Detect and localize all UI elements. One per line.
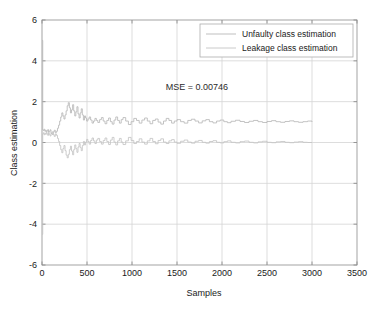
legend-label-1[interactable]: Leakage class estimation — [242, 43, 338, 53]
y-tick-label: 4 — [32, 56, 37, 66]
y-tick-label: 2 — [32, 97, 37, 107]
legend-label-0[interactable]: Unfaulty class estimation — [242, 29, 336, 39]
legend[interactable]: Unfaulty class estimationLeakage class e… — [200, 24, 353, 57]
y-tick-label: -2 — [29, 179, 37, 189]
y-axis-title: Class estimation — [9, 110, 19, 176]
x-tick-label: 500 — [79, 268, 94, 278]
y-tick-label: 6 — [32, 15, 37, 25]
figure-container: 0500100015002000250030003500 -6-4-20246 … — [0, 0, 374, 309]
x-tick-labels: 0500100015002000250030003500 — [39, 268, 367, 278]
y-tick-labels: -6-4-20246 — [29, 15, 37, 270]
x-tick-label: 2500 — [257, 268, 277, 278]
y-tick-label: 0 — [32, 138, 37, 148]
x-tick-label: 0 — [39, 268, 44, 278]
x-tick-label: 1500 — [167, 268, 187, 278]
y-tick-label: -6 — [29, 260, 37, 270]
annotations: MSE = 0.00746 — [166, 82, 228, 92]
x-tick-label: 3000 — [302, 268, 322, 278]
mse-annotation: MSE = 0.00746 — [166, 82, 228, 92]
x-tick-label: 3500 — [347, 268, 367, 278]
x-tick-label: 1000 — [122, 268, 142, 278]
x-tick-label: 2000 — [212, 268, 232, 278]
y-tick-label: -4 — [29, 219, 37, 229]
x-axis-title: Samples — [186, 288, 222, 298]
chart-canvas: 0500100015002000250030003500 -6-4-20246 … — [0, 0, 374, 309]
